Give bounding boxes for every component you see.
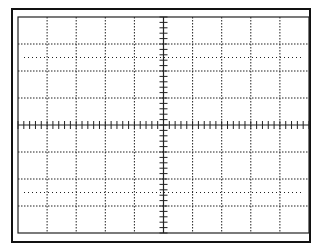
oscilloscope-graticule bbox=[0, 0, 330, 252]
